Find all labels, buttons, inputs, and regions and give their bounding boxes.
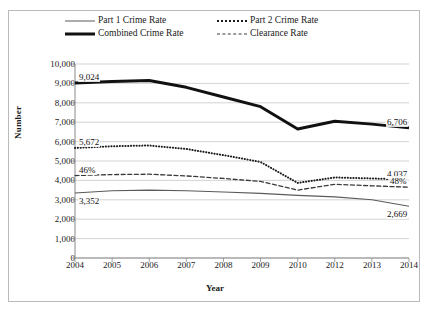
x-axis-tick-label: 2006 (140, 260, 158, 270)
series-line-combined-crime-rate (75, 80, 409, 128)
data-label: 9,024 (78, 72, 100, 82)
data-label: 6,706 (386, 117, 408, 127)
data-label: 48% (389, 176, 408, 186)
x-axis-label: Year (9, 283, 421, 293)
data-label: 5,672 (78, 137, 100, 147)
x-axis-tick-label: 2004 (66, 260, 84, 270)
data-label: 2,669 (386, 209, 408, 219)
series-line-part-2-crime-rate (75, 145, 409, 182)
series-line-clearance-rate (75, 174, 409, 190)
series-line-part-1-crime-rate (75, 190, 409, 206)
x-axis-tick-label: 2005 (103, 260, 121, 270)
chart-container: Part 1 Crime Rate Part 2 Crime Rate Comb… (8, 10, 420, 302)
x-axis-tick-label: 2012 (326, 260, 344, 270)
x-axis-tick-label: 2008 (214, 260, 232, 270)
plot-area: Number 10,0009,0008,0007,0006,0005,0004,… (9, 11, 421, 303)
x-axis-tick-label: 2013 (363, 260, 381, 270)
x-axis-tick-label: 2010 (289, 260, 307, 270)
x-axis-tick-label: 2007 (177, 260, 195, 270)
data-label: 46% (78, 165, 97, 175)
data-label: 3,352 (78, 196, 100, 206)
x-axis-tick-label: 2009 (252, 260, 270, 270)
x-axis-tick-label: 2014 (400, 260, 418, 270)
